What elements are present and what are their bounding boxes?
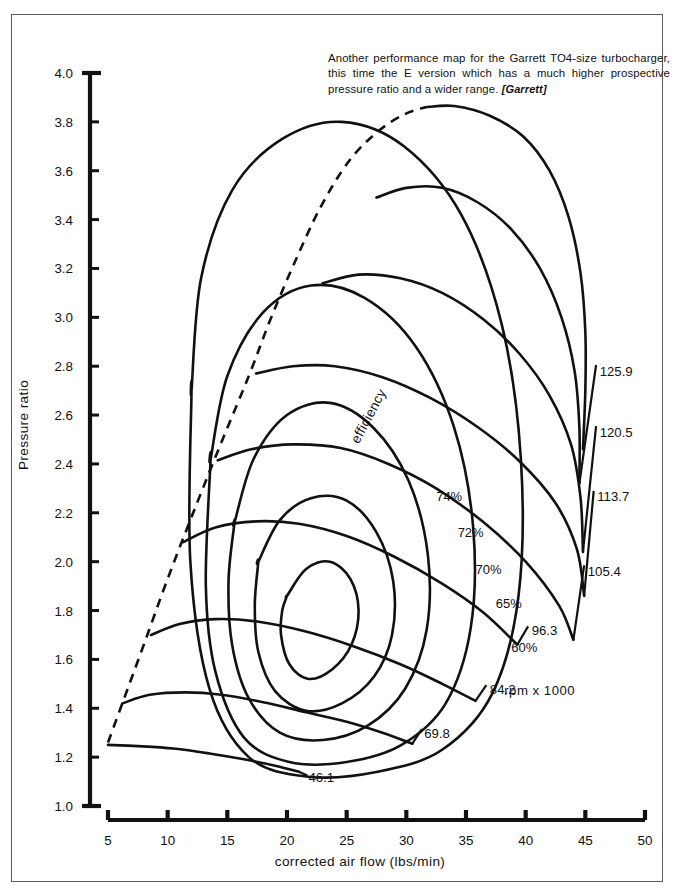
y-tick-label: 2.8 xyxy=(54,359,73,374)
x-tick-label: 15 xyxy=(220,833,235,848)
rpm-units-note: rpm x 1000 xyxy=(504,683,575,698)
y-axis-title: Pressure ratio xyxy=(16,380,31,470)
y-axis-ticks: 1.01.21.41.61.82.02.22.42.62.83.03.23.43… xyxy=(54,66,101,814)
y-tick-label: 4.0 xyxy=(54,66,73,81)
y-tick-label: 2.0 xyxy=(54,555,73,570)
y-tick-label: 1.8 xyxy=(54,604,73,619)
y-tick-label: 1.2 xyxy=(54,750,73,765)
x-tick-label: 30 xyxy=(399,833,414,848)
efficiency-label-65: 65% xyxy=(496,596,522,611)
speed-line-130 xyxy=(425,106,585,450)
x-tick-label: 5 xyxy=(104,833,111,848)
y-tick-label: 3.2 xyxy=(54,261,73,276)
x-axis-title: corrected air flow (lbs/min) xyxy=(275,854,446,869)
y-tick-label: 2.6 xyxy=(54,408,73,423)
x-tick-label: 50 xyxy=(638,833,653,848)
y-tick-label: 3.4 xyxy=(54,213,73,228)
y-tick-label: 3.8 xyxy=(54,115,73,130)
x-tick-label: 35 xyxy=(459,833,474,848)
x-axis-ticks: 5101520253035404550 xyxy=(104,810,652,848)
speed-label-120-5: 120.5 xyxy=(600,425,633,440)
speed-label-leader-5 xyxy=(584,491,594,596)
x-tick-label: 25 xyxy=(339,833,354,848)
speed-label-105-4: 105.4 xyxy=(588,564,621,579)
speed-line-46-1 xyxy=(108,745,299,772)
x-tick-label: 10 xyxy=(160,833,175,848)
speed-label-leader-2 xyxy=(476,685,487,701)
efficiency-label-70: 70% xyxy=(476,562,502,577)
speed-label-113-7: 113.7 xyxy=(597,489,629,504)
efficiency-label-74: 74% xyxy=(436,489,462,504)
y-tick-label: 1.6 xyxy=(54,652,73,667)
speed-line-69-8 xyxy=(122,692,412,743)
surge-line xyxy=(108,107,425,742)
chart-axes: 1.01.21.41.61.82.02.22.42.62.83.03.23.43… xyxy=(54,66,652,848)
x-tick-label: 45 xyxy=(578,833,593,848)
y-tick-label: 1.0 xyxy=(54,799,73,814)
x-tick-label: 20 xyxy=(280,833,295,848)
speed-label-leader-7 xyxy=(579,365,596,484)
efficiency-label-72: 72% xyxy=(458,525,484,540)
efficiency-island-74 xyxy=(281,561,359,679)
y-tick-label: 3.6 xyxy=(54,164,73,179)
y-tick-label: 2.2 xyxy=(54,506,73,521)
y-tick-label: 3.0 xyxy=(54,310,73,325)
speed-label-leader-4 xyxy=(573,565,584,640)
speed-label-96-3: 96.3 xyxy=(532,623,558,638)
y-tick-label: 2.4 xyxy=(54,457,73,472)
speed-label-46-1: 46.1 xyxy=(308,770,334,785)
speed-label-125-9: 125.9 xyxy=(600,364,633,379)
speed-label-69-8: 69.8 xyxy=(424,726,450,741)
x-tick-label: 40 xyxy=(518,833,533,848)
y-tick-label: 1.4 xyxy=(54,701,73,716)
compressor-map-chart: 1.01.21.41.61.82.02.22.42.62.83.03.23.43… xyxy=(0,0,675,896)
efficiency-label-60: 60% xyxy=(511,640,537,655)
